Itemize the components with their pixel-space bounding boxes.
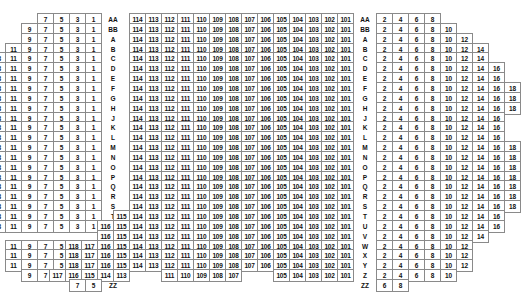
seat[interactable]: 3 (69, 220, 86, 233)
row-label-right: ZZ (356, 279, 374, 292)
seat[interactable]: 8 (392, 279, 409, 292)
seat-gap (241, 269, 258, 282)
seat-gap (257, 269, 274, 282)
seat[interactable]: 9 (21, 220, 38, 233)
seat[interactable]: 110 (177, 269, 194, 282)
seat[interactable]: 5 (85, 279, 102, 292)
seat[interactable]: 14 (472, 230, 489, 243)
seat-gap (145, 269, 162, 282)
seat[interactable]: 107 (225, 269, 242, 282)
seat-row-left: 131197531 (0, 220, 102, 233)
seat[interactable]: 7 (69, 279, 86, 292)
seat[interactable]: 6 (408, 269, 425, 282)
seat[interactable]: 18 (504, 102, 521, 115)
seat[interactable]: 6 (376, 279, 393, 292)
seat[interactable]: 9 (21, 269, 38, 282)
seat[interactable]: 11 (5, 259, 22, 272)
seat[interactable]: 18 (504, 200, 521, 213)
seat[interactable]: 103 (305, 269, 322, 282)
seat[interactable]: 109 (193, 269, 210, 282)
seat[interactable]: 12 (456, 259, 473, 272)
seat[interactable]: 111 (161, 269, 178, 282)
seat[interactable]: 105 (273, 269, 290, 282)
seat[interactable]: 8 (424, 269, 441, 282)
seat-gap (129, 269, 146, 282)
seat[interactable]: 5 (53, 220, 70, 233)
seat[interactable]: 117 (49, 269, 66, 282)
seat[interactable]: 7 (37, 220, 54, 233)
seat-row-right: 68 (376, 279, 409, 292)
seat[interactable]: 102 (321, 269, 338, 282)
seat[interactable]: 10 (440, 269, 457, 282)
seat[interactable]: 108 (209, 269, 226, 282)
seat[interactable]: 16 (488, 220, 505, 233)
seat[interactable]: 104 (289, 269, 306, 282)
seat[interactable]: 101 (337, 269, 354, 282)
row-label-left: ZZ (104, 279, 122, 292)
seat-row-left: 75 (69, 279, 102, 292)
seat[interactable]: 11 (5, 220, 22, 233)
